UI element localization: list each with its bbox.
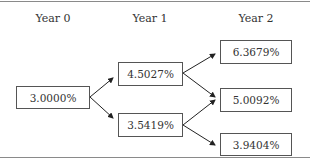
- node-year2-down: 3.9404%: [220, 133, 292, 156]
- node-year2-up: 6.3679%: [220, 40, 292, 64]
- node-year2-mid: 5.0092%: [220, 88, 292, 112]
- node-year0: 3.0000%: [16, 86, 90, 109]
- node-year1-up: 4.5027%: [118, 62, 183, 86]
- node-year1-down: 3.5419%: [118, 113, 183, 137]
